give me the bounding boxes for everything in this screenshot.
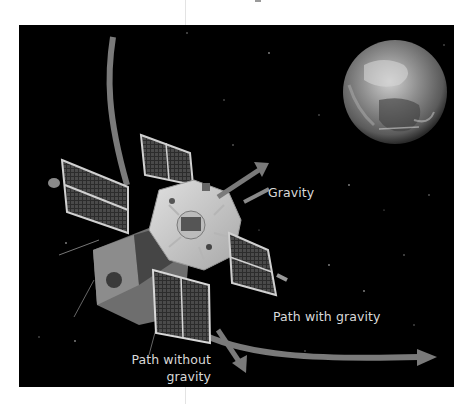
guide-line-top — [185, 0, 186, 25]
path-with-gravity-label: Path with gravity — [273, 309, 381, 325]
guide-line-bottom — [185, 387, 186, 404]
top-mark — [255, 0, 261, 2]
gravity-label: Gravity — [268, 185, 314, 201]
path-without-gravity-label: Path without gravity — [129, 351, 211, 385]
path-without-gravity-arrow — [218, 330, 247, 373]
space-illustration: Gravity Path with gravity Path without g… — [19, 25, 454, 387]
earth — [343, 40, 447, 144]
satellite — [48, 135, 287, 355]
scene — [19, 25, 454, 387]
